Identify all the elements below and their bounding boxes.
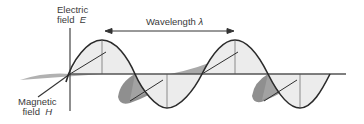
electric-symbol: E	[80, 14, 86, 25]
electric-label-word: field	[57, 14, 74, 25]
wavelength-word: Wavelength	[146, 16, 196, 27]
wavelength-arrow	[105, 29, 234, 34]
electric-field-label: Electric field E	[57, 5, 88, 25]
magnetic-field-label: Magnetic field H	[18, 97, 57, 117]
magnetic-label-word: field	[22, 106, 39, 117]
wavelength-symbol: λ	[198, 16, 203, 27]
magnetic-symbol: H	[45, 106, 52, 117]
wavelength-label: Wavelength λ	[146, 17, 203, 27]
